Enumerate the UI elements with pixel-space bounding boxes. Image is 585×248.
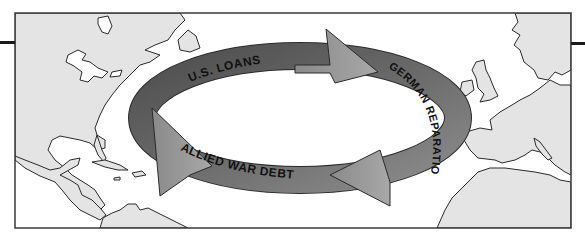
jamaica — [114, 177, 120, 180]
war-debt-cycle-diagram: U.S. LOANS GERMAN REPARATIONS ALLIED WAR… — [0, 0, 585, 248]
left-rule — [0, 41, 15, 44]
right-rule — [571, 42, 585, 45]
map-svg: U.S. LOANS GERMAN REPARATIONS ALLIED WAR… — [0, 0, 585, 248]
